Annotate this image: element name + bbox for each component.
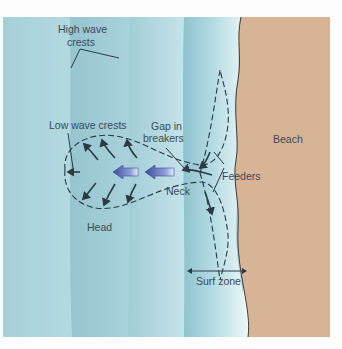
label-high-wave-crests: crests xyxy=(67,36,95,48)
wave-band-3 xyxy=(128,17,184,337)
label-gap-in-breakers: Gap in xyxy=(151,120,182,132)
water xyxy=(3,17,248,337)
label-feeders: Feeders xyxy=(222,170,261,182)
label-neck: Neck xyxy=(166,185,191,197)
wave-band-1 xyxy=(3,17,72,337)
label-surf-zone: Surf zone xyxy=(196,275,241,287)
label-low-wave-crests: Low wave crests xyxy=(49,119,127,131)
label-high-wave-crests: High wave xyxy=(58,23,107,35)
rip-current-diagram: High wave crests Low wave crests Gap in … xyxy=(0,0,342,349)
label-gap-in-breakers: breakers xyxy=(143,132,184,144)
label-beach: Beach xyxy=(273,133,303,145)
label-head: Head xyxy=(87,221,112,233)
